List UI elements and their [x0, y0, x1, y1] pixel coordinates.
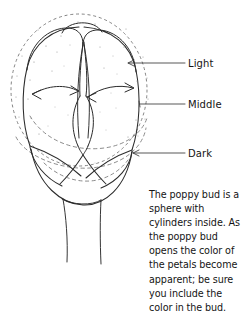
callout-leader-lines — [128, 63, 185, 153]
bud-outer-contour — [23, 27, 139, 150]
petal-wrap-arrow-left — [32, 86, 79, 99]
calyx-sepals — [30, 146, 132, 205]
callout-label-middle: Middle — [188, 99, 222, 111]
poppy-bud-figure: Light Middle Dark The poppy bud is a sph… — [0, 0, 242, 320]
callout-label-dark: Dark — [188, 148, 212, 160]
petal-cylinder-tops — [27, 23, 136, 72]
callout-label-light: Light — [188, 58, 213, 70]
construction-sphere-dashed — [11, 14, 147, 166]
petal-wrap-arrow-right — [87, 83, 134, 102]
stem — [62, 199, 101, 264]
figure-caption: The poppy bud is a sphere with cylinders… — [149, 188, 241, 315]
